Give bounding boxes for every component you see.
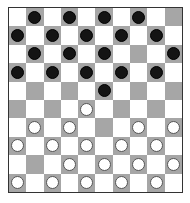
light-square-r2c2: [44, 45, 61, 63]
dark-square-r2c5[interactable]: [95, 45, 112, 63]
white-piece[interactable]: [115, 176, 128, 189]
dark-square-r9c8[interactable]: [147, 174, 164, 192]
dark-square-r8c9[interactable]: [165, 155, 182, 173]
dark-square-r7c6[interactable]: [113, 137, 130, 155]
dark-square-r4c1[interactable]: [26, 82, 43, 100]
dark-square-r0c5[interactable]: [95, 8, 112, 26]
black-piece[interactable]: [28, 11, 41, 24]
white-piece[interactable]: [115, 139, 128, 152]
dark-square-r0c7[interactable]: [130, 8, 147, 26]
light-square-r0c8: [147, 8, 164, 26]
dark-square-r5c4[interactable]: [78, 100, 95, 118]
black-piece[interactable]: [28, 47, 41, 60]
white-piece[interactable]: [80, 103, 93, 116]
dark-square-r4c3[interactable]: [61, 82, 78, 100]
dark-square-r7c2[interactable]: [44, 137, 61, 155]
black-piece[interactable]: [80, 66, 93, 79]
black-piece[interactable]: [46, 66, 59, 79]
white-piece[interactable]: [80, 176, 93, 189]
light-square-r4c8: [147, 82, 164, 100]
dark-square-r0c9[interactable]: [165, 8, 182, 26]
black-piece[interactable]: [46, 29, 59, 42]
white-piece[interactable]: [167, 121, 180, 134]
light-square-r5c7: [130, 100, 147, 118]
dark-square-r9c0[interactable]: [9, 174, 26, 192]
black-piece[interactable]: [98, 47, 111, 60]
dark-square-r2c3[interactable]: [61, 45, 78, 63]
dark-square-r1c8[interactable]: [147, 26, 164, 44]
dark-square-r1c4[interactable]: [78, 26, 95, 44]
dark-square-r8c7[interactable]: [130, 155, 147, 173]
dark-square-r8c5[interactable]: [95, 155, 112, 173]
white-piece[interactable]: [80, 139, 93, 152]
black-piece[interactable]: [98, 11, 111, 24]
white-piece[interactable]: [63, 158, 76, 171]
white-piece[interactable]: [150, 139, 163, 152]
dark-square-r9c2[interactable]: [44, 174, 61, 192]
light-square-r5c5: [95, 100, 112, 118]
white-piece[interactable]: [63, 121, 76, 134]
dark-square-r5c8[interactable]: [147, 100, 164, 118]
dark-square-r2c9[interactable]: [165, 45, 182, 63]
dark-square-r0c1[interactable]: [26, 8, 43, 26]
dark-square-r1c6[interactable]: [113, 26, 130, 44]
dark-square-r7c0[interactable]: [9, 137, 26, 155]
dark-square-r3c2[interactable]: [44, 63, 61, 81]
dark-square-r5c6[interactable]: [113, 100, 130, 118]
black-piece[interactable]: [167, 47, 180, 60]
dark-square-r2c7[interactable]: [130, 45, 147, 63]
dark-square-r6c1[interactable]: [26, 118, 43, 136]
dark-square-r6c9[interactable]: [165, 118, 182, 136]
light-square-r8c0: [9, 155, 26, 173]
dark-square-r7c4[interactable]: [78, 137, 95, 155]
white-piece[interactable]: [98, 158, 111, 171]
white-piece[interactable]: [46, 176, 59, 189]
black-piece[interactable]: [115, 29, 128, 42]
dark-square-r4c5[interactable]: [95, 82, 112, 100]
dark-square-r5c2[interactable]: [44, 100, 61, 118]
dark-square-r8c1[interactable]: [26, 155, 43, 173]
black-piece[interactable]: [98, 84, 111, 97]
dark-square-r6c7[interactable]: [130, 118, 147, 136]
dark-square-r8c3[interactable]: [61, 155, 78, 173]
black-piece[interactable]: [132, 11, 145, 24]
dark-square-r0c3[interactable]: [61, 8, 78, 26]
dark-square-r3c6[interactable]: [113, 63, 130, 81]
dark-square-r6c3[interactable]: [61, 118, 78, 136]
white-piece[interactable]: [46, 139, 59, 152]
white-piece[interactable]: [132, 121, 145, 134]
dark-square-r5c0[interactable]: [9, 100, 26, 118]
black-piece[interactable]: [63, 47, 76, 60]
black-piece[interactable]: [11, 66, 24, 79]
white-piece[interactable]: [11, 139, 24, 152]
dark-square-r3c8[interactable]: [147, 63, 164, 81]
black-piece[interactable]: [150, 66, 163, 79]
dark-square-r6c5[interactable]: [95, 118, 112, 136]
dark-square-r9c4[interactable]: [78, 174, 95, 192]
dark-square-r2c1[interactable]: [26, 45, 43, 63]
dark-square-r4c7[interactable]: [130, 82, 147, 100]
light-square-r7c9: [165, 137, 182, 155]
dark-square-r1c2[interactable]: [44, 26, 61, 44]
dark-square-r7c8[interactable]: [147, 137, 164, 155]
white-piece[interactable]: [150, 176, 163, 189]
light-square-r2c0: [9, 45, 26, 63]
light-square-r7c5: [95, 137, 112, 155]
dark-square-r9c6[interactable]: [113, 174, 130, 192]
light-square-r1c1: [26, 26, 43, 44]
dark-square-r3c4[interactable]: [78, 63, 95, 81]
dark-square-r3c0[interactable]: [9, 63, 26, 81]
white-piece[interactable]: [11, 176, 24, 189]
light-square-r6c2: [44, 118, 61, 136]
black-piece[interactable]: [80, 29, 93, 42]
white-piece[interactable]: [28, 121, 41, 134]
black-piece[interactable]: [11, 29, 24, 42]
light-square-r4c0: [9, 82, 26, 100]
black-piece[interactable]: [150, 29, 163, 42]
white-piece[interactable]: [132, 158, 145, 171]
black-piece[interactable]: [115, 66, 128, 79]
dark-square-r4c9[interactable]: [165, 82, 182, 100]
white-piece[interactable]: [167, 158, 180, 171]
dark-square-r1c0[interactable]: [9, 26, 26, 44]
black-piece[interactable]: [63, 11, 76, 24]
